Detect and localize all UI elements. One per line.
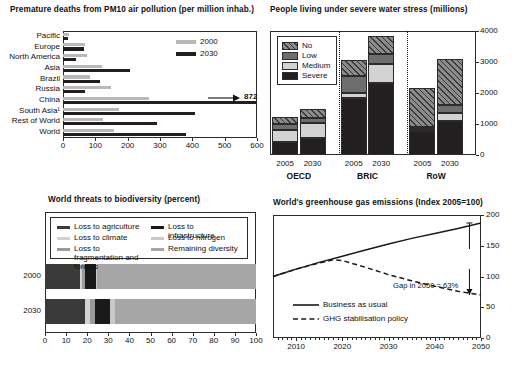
water-group-label-OECD: OECD [277, 171, 321, 181]
pm10-872-value: 872 [244, 92, 257, 101]
ghg-xminortick-2039 [430, 338, 431, 340]
biodiversity-legend-swatch-Loss-to-infrastructure [151, 226, 164, 229]
ghg-xminortick-2036 [416, 338, 417, 340]
panel-pm10: Premature deaths from PM10 air pollution… [0, 0, 265, 190]
ghg-xminortick-2019 [338, 338, 339, 340]
pm10-bar-2000-6 [63, 97, 149, 100]
water-ytickmark-0 [476, 155, 479, 156]
ghg-legend-label-Business-as-usual: Business as usual [323, 300, 387, 309]
ghg-xminortick-2038 [426, 338, 427, 340]
pm10-legend-swatch-2000 [176, 40, 196, 44]
biodiversity-segment-1-Remaining-diversity [115, 299, 256, 324]
biodiversity-xtick-50: 50 [140, 336, 162, 345]
water-legend-label-Severe: Severe [302, 71, 327, 80]
pm10-bar-2030-1 [63, 47, 84, 50]
water-xtick-2: 2005 [341, 159, 367, 168]
ghg-xminortick-2024 [361, 338, 362, 340]
pm10-label-1: Europe [0, 42, 60, 51]
ghg-xminortick-2025 [365, 338, 366, 340]
biodiversity-legend-item-Remaining-diversity: Remaining diversity [151, 244, 242, 253]
pm10-xtick-300: 300 [148, 141, 172, 150]
water-segment-Medium-0 [272, 130, 298, 142]
water-legend-item-Low: Low [282, 51, 330, 60]
ghg-legend-label-GHG-stabilisation-policy: GHG stabilisation policy [323, 314, 408, 323]
water-segment-No-2 [341, 60, 367, 76]
pm10-xtickmark-100 [95, 138, 96, 141]
biodiversity-row-label-2030: 2030 [13, 306, 41, 315]
water-ytickmark-4000 [476, 31, 479, 32]
ghg-xminortick-2033 [402, 338, 403, 340]
ghg-xminortick-2048 [472, 338, 473, 340]
biodiversity-xtickmark-50 [151, 333, 152, 336]
ghg-xminortick-2042 [444, 338, 445, 340]
biodiversity-xtick-80: 80 [203, 336, 225, 345]
pm10-xtickmark-0 [63, 138, 64, 141]
ghg-legend-item-Business-as-usual: Business as usual [293, 300, 408, 309]
panel-water-stress: People living under severe water stress … [265, 0, 525, 190]
biodiversity-xtick-40: 40 [118, 336, 140, 345]
water-segment-Low-4 [409, 127, 435, 129]
pm10-872-arrow-icon [208, 93, 242, 105]
pm10-xtick-200: 200 [116, 141, 140, 150]
ghg-xtick-2040: 2040 [421, 342, 449, 351]
ghg-xminortick-2014 [315, 338, 316, 340]
biodiversity-legend: Loss to agricultureLoss to climateLoss t… [50, 217, 248, 259]
ghg-xtickmark-2010 [296, 338, 297, 341]
biodiversity-xtickmark-60 [172, 333, 173, 336]
water-ytick-2000: 2000 [480, 88, 498, 97]
ghg-xtick-2050: 2050 [467, 342, 495, 351]
panel-ghg: World's greenhouse gas emissions (Index … [265, 190, 525, 377]
pm10-legend-swatch-2030 [176, 52, 196, 56]
pm10-bar-2000-4 [63, 75, 90, 78]
ghg-ytickmark-150 [481, 246, 484, 247]
ghg-ytick-50: 50 [486, 302, 495, 311]
ghg-ytickmark-200 [481, 215, 484, 216]
water-segment-Low-3 [368, 54, 394, 65]
pm10-bar-2030-8 [63, 122, 157, 125]
water-segment-No-3 [368, 36, 394, 54]
ghg-xminortick-2047 [467, 338, 468, 340]
ghg-xminortick-2016 [324, 338, 325, 340]
ghg-xtickmark-2020 [342, 338, 343, 341]
ghg-xminortick-2006 [278, 338, 279, 340]
pm10-bar-2030-2 [63, 58, 76, 61]
pm10-label-9: World [0, 127, 60, 136]
biodiversity-legend-item-Loss-to-climate: Loss to climate [57, 233, 148, 242]
ghg-xminortick-2046 [463, 338, 464, 340]
biodiversity-xtick-100: 100 [245, 336, 267, 345]
ghg-xminortick-2037 [421, 338, 422, 340]
water-ytickmark-2000 [476, 93, 479, 94]
pm10-legend-item-2000: 2000 [176, 37, 218, 46]
pm10-label-0: Pacific [0, 31, 60, 40]
water-segment-Severe-0 [272, 142, 298, 155]
water-legend-swatch-Low [282, 52, 298, 60]
biodiversity-legend-swatch-Loss-to-agriculture [57, 226, 70, 229]
biodiversity-legend-label-Loss-to-nitrogen: Loss to nitrogen [168, 233, 242, 242]
biodiversity-legend-label-Remaining-diversity: Remaining diversity [168, 244, 242, 253]
pm10-xtickmark-200 [128, 138, 129, 141]
pm10-xtickmark-400 [192, 138, 193, 141]
water-group-label-BRIC: BRIC [346, 171, 390, 181]
water-segment-Severe-4 [409, 131, 435, 155]
biodiversity-xtickmark-40 [129, 333, 130, 336]
pm10-bar-2000-9 [63, 129, 114, 132]
biodiversity-legend-swatch-Loss-to-climate [57, 237, 70, 240]
biodiversity-xtick-10: 10 [55, 336, 77, 345]
ghg-xminortick-2032 [398, 338, 399, 340]
pm10-legend-label-2030: 2030 [200, 49, 218, 58]
water-legend-label-Medium: Medium [302, 61, 330, 70]
water-segment-Severe-1 [300, 138, 326, 155]
biodiversity-title: World threats to biodiversity (percent) [48, 195, 200, 204]
pm10-legend-label-2000: 2000 [200, 37, 218, 46]
pm10-xtick-400: 400 [180, 141, 204, 150]
pm10-bar-2000-7 [63, 108, 119, 111]
ghg-xminortick-2007 [282, 338, 283, 340]
pm10-bar-2000-2 [63, 54, 87, 57]
pm10-label-6: China [0, 95, 60, 104]
panel-biodiversity: World threats to biodiversity (percent) … [0, 190, 265, 377]
water-ytickmark-1000 [476, 124, 479, 125]
pm10-label-5: Russia [0, 84, 60, 93]
ghg-xminortick-2041 [439, 338, 440, 340]
ghg-legend-swatch-dashed-icon [293, 316, 319, 322]
ghg-xminortick-2009 [291, 338, 292, 340]
